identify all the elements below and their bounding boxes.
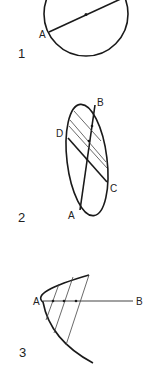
figure-number-2: 2 bbox=[18, 210, 25, 225]
figure-number-1: 1 bbox=[18, 46, 25, 61]
parabola-midpoint-1 bbox=[52, 300, 55, 303]
parabola-midpoint-3 bbox=[75, 300, 78, 303]
conic-diameters-diagram: A 1 B D C A 2 A B 3 bbox=[0, 0, 156, 368]
parabola-chord-3 bbox=[66, 275, 89, 345]
label-2-b: B bbox=[97, 97, 104, 108]
circle-center-dot bbox=[85, 13, 88, 16]
label-3-b: B bbox=[136, 296, 143, 307]
circle-diameter bbox=[49, 0, 125, 32]
parabola-midpoint-2 bbox=[63, 300, 66, 303]
parabola-curve bbox=[41, 275, 93, 363]
ellipse-midpoint-1 bbox=[91, 125, 94, 128]
ellipse-midpoint-2 bbox=[88, 140, 91, 143]
figure-3: A B 3 bbox=[19, 275, 143, 363]
figure-1: A 1 bbox=[18, 0, 128, 61]
label-3-a: A bbox=[33, 296, 40, 307]
label-2-c: C bbox=[110, 183, 117, 194]
label-2-d: D bbox=[56, 128, 63, 139]
ellipse-center-dot bbox=[86, 158, 89, 161]
label-1-a: A bbox=[39, 29, 46, 40]
figure-number-3: 3 bbox=[19, 345, 26, 360]
figure-2: B D C A 2 bbox=[18, 97, 117, 225]
label-2-a: A bbox=[68, 210, 75, 221]
